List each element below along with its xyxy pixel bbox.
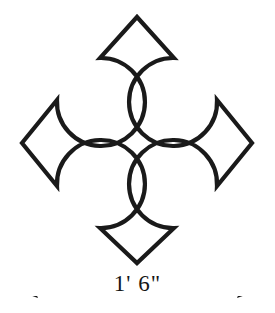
dimension-label-text: 1' 6" — [108, 271, 167, 296]
tile-figure-svg — [0, 0, 275, 313]
dimension-label: 1' 6" — [0, 271, 275, 296]
